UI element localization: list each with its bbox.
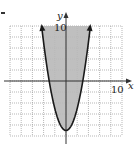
graph: y x 10 10 [0,0,136,148]
y-tick-label: 10 [54,22,67,33]
x-tick-label: 10 [111,84,124,95]
x-axis-label: x [128,80,134,91]
y-axis-label: y [56,10,63,21]
y-axis-arrow-icon [64,12,69,18]
